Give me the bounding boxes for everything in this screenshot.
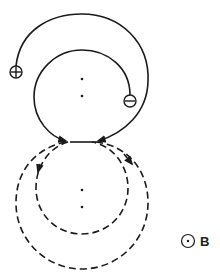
center-dot: [81, 78, 84, 81]
positive-charge-trajectory: [16, 14, 148, 141]
positive-charge-icon: [10, 66, 22, 78]
negative-charge-icon: [124, 95, 136, 107]
center-dot: [81, 95, 84, 98]
dashed-inner-trajectory: [36, 142, 128, 234]
field-label: B: [200, 234, 209, 249]
magnetic-field-out-of-page-icon: [182, 235, 195, 248]
diagram-canvas: B: [0, 0, 220, 279]
dashed-inner-arrow: [38, 164, 40, 172]
center-dot: [81, 189, 84, 192]
center-dot: [81, 206, 84, 209]
dashed-outer-trajectory: [16, 142, 148, 269]
